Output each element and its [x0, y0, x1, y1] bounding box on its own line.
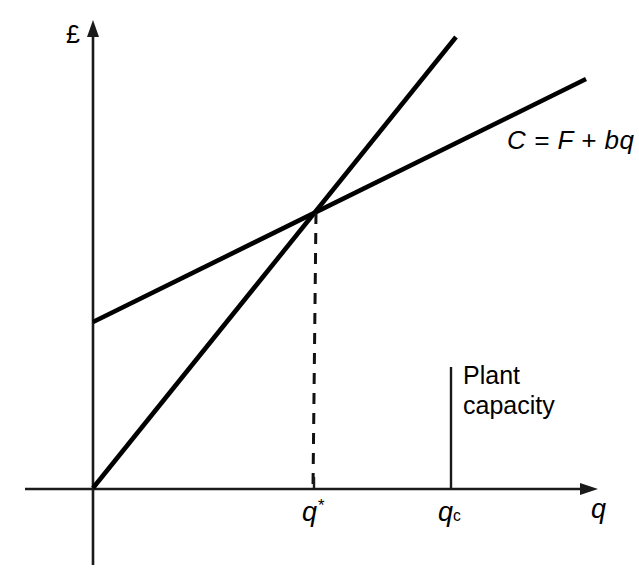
- q-capacity-subscript: c: [453, 507, 461, 524]
- q-capacity-label: qc: [438, 497, 461, 529]
- cost-equation-label: C = F + bq: [507, 125, 634, 156]
- q-star-base: q: [302, 497, 317, 527]
- plant-capacity-line-2: capacity: [463, 391, 555, 421]
- q-star-label: q*: [302, 497, 325, 529]
- y-axis-arrowhead: [87, 20, 99, 37]
- q-capacity-base: q: [438, 497, 453, 527]
- break-even-dropline: [313, 213, 316, 487]
- x-axis-label: q: [591, 494, 606, 526]
- plant-capacity-line-1: Plant: [463, 361, 555, 391]
- break-even-chart: £ C = F + bq q* qc q Plantcapacity: [0, 0, 639, 585]
- total-cost-line: [93, 79, 586, 322]
- plant-capacity-label: Plantcapacity: [463, 361, 555, 420]
- revenue-line: [93, 37, 456, 488]
- y-axis-label: £: [66, 20, 80, 50]
- q-star-superscript: *: [318, 496, 325, 515]
